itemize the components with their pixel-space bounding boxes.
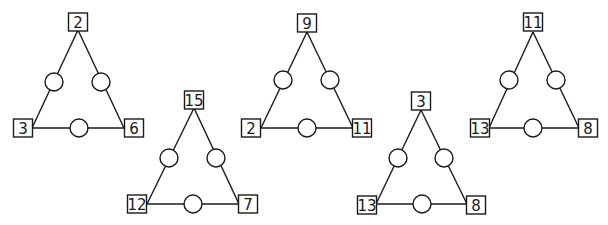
- blank-circle-right[interactable]: [547, 71, 565, 89]
- blank-circle-bottom[interactable]: [524, 119, 542, 137]
- blank-circle-bottom[interactable]: [70, 119, 88, 137]
- corner-top: 11: [523, 13, 542, 32]
- corner-number: 2: [73, 14, 83, 32]
- corner-left: 2: [242, 119, 261, 138]
- corner-number: 8: [471, 197, 481, 215]
- triangle-3: 9 2 11: [242, 14, 372, 138]
- corner-left: 3: [14, 119, 33, 138]
- corner-left: 13: [357, 196, 376, 215]
- blank-circle-right[interactable]: [321, 71, 339, 89]
- blank-circle-right[interactable]: [207, 149, 225, 167]
- corner-top: 9: [298, 14, 317, 33]
- corner-top: 2: [69, 13, 88, 32]
- corner-number: 3: [18, 120, 28, 138]
- corner-number: 9: [302, 15, 312, 33]
- triangle-5: 11 13 8: [470, 13, 597, 138]
- corner-right: 6: [125, 119, 144, 138]
- corner-number: 11: [523, 14, 542, 32]
- corner-number: 11: [352, 120, 371, 138]
- puzzle-canvas: 2 3 6 15 12 7: [0, 0, 608, 225]
- corner-right: 11: [352, 119, 371, 138]
- blank-circle-right[interactable]: [92, 73, 110, 91]
- corner-number: 7: [243, 196, 253, 214]
- corner-right: 8: [467, 196, 486, 215]
- corner-number: 13: [357, 197, 376, 215]
- blank-circle-left[interactable]: [274, 71, 292, 89]
- blank-circle-bottom[interactable]: [298, 119, 316, 137]
- corner-number: 15: [184, 92, 203, 110]
- blank-circle-left[interactable]: [160, 149, 178, 167]
- blank-circle-left[interactable]: [389, 149, 407, 167]
- corner-number: 12: [127, 196, 146, 214]
- corner-number: 8: [583, 120, 593, 138]
- corner-number: 13: [470, 120, 489, 138]
- blank-circle-bottom[interactable]: [413, 195, 431, 213]
- corner-right: 8: [579, 119, 598, 138]
- corner-left: 13: [470, 119, 489, 138]
- blank-circle-right[interactable]: [435, 149, 453, 167]
- corner-number: 6: [129, 120, 139, 138]
- corner-left: 12: [127, 195, 146, 214]
- blank-circle-left[interactable]: [45, 73, 63, 91]
- blank-circle-bottom[interactable]: [184, 195, 202, 213]
- triangle-4: 3 13 8: [357, 92, 485, 215]
- triangle-1: 2 3 6: [14, 13, 144, 138]
- blank-circle-left[interactable]: [500, 71, 518, 89]
- corner-number: 3: [416, 93, 426, 111]
- corner-top: 15: [184, 91, 203, 110]
- triangle-2: 15 12 7: [127, 91, 257, 214]
- corner-top: 3: [412, 92, 431, 111]
- corner-number: 2: [246, 120, 256, 138]
- corner-right: 7: [239, 195, 258, 214]
